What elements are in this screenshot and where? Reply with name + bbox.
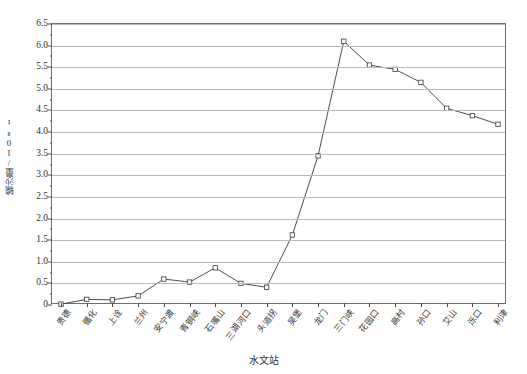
- x-tick-label: 艾山: [437, 306, 459, 329]
- y-tick-mark: [48, 218, 52, 219]
- x-tick-label-text: 高村: [386, 306, 408, 329]
- data-point-marker: [162, 277, 166, 281]
- x-tick-label: 花园口: [355, 306, 382, 336]
- y-tick-label: 4.5: [22, 104, 48, 114]
- plot-area: [51, 23, 506, 304]
- y-tick-mark: [48, 67, 52, 68]
- x-tick-label: 孙口: [412, 306, 434, 329]
- x-tick-label-text: 艾山: [437, 306, 459, 329]
- y-tick-mark: [48, 175, 52, 176]
- y-tick-mark: [48, 88, 52, 89]
- y-tick-label: 1.5: [22, 234, 48, 244]
- data-point-marker: [470, 113, 474, 117]
- y-tick-label: 0: [22, 299, 48, 309]
- x-tick-label: 吴堡: [283, 306, 305, 329]
- y-tick-label: 3.5: [22, 148, 48, 158]
- gridline: [52, 46, 505, 47]
- data-point-marker: [290, 233, 294, 237]
- x-axis-tick-labels: 贵德循化上诠兰州安宁渡青铜峡石嘴山三湖河口头道拐吴堡龙门三门峡花园口高村孙口艾山…: [51, 306, 506, 356]
- gridline: [52, 262, 505, 263]
- y-tick-label: 6.0: [22, 40, 48, 50]
- x-tick-label-text: 利津: [489, 306, 511, 329]
- y-tick-label: 3.0: [22, 169, 48, 179]
- x-tick-label-text: 循化: [77, 306, 99, 329]
- gridline: [52, 67, 505, 68]
- x-tick-label: 上诠: [103, 306, 125, 329]
- gridline: [52, 24, 505, 25]
- x-tick-label-text: 孙口: [412, 306, 434, 329]
- x-tick-label-text: 花园口: [355, 306, 382, 336]
- gridline: [52, 110, 505, 111]
- y-minor-tick-mark: [50, 121, 53, 122]
- x-tick-label-text: 青铜峡: [175, 306, 202, 336]
- x-tick-label: 龙门: [309, 306, 331, 329]
- y-tick-label: 1.0: [22, 256, 48, 266]
- y-tick-mark: [48, 132, 52, 133]
- x-tick-label-text: 三门峡: [329, 306, 356, 336]
- y-tick-label: 4.0: [22, 126, 48, 136]
- data-point-marker: [85, 297, 89, 301]
- x-tick-label: 高村: [386, 306, 408, 329]
- y-tick-label: 6.5: [22, 18, 48, 28]
- y-minor-tick-mark: [50, 207, 53, 208]
- data-point-marker: [136, 294, 140, 298]
- x-tick-label: 贵德: [52, 306, 74, 329]
- x-tick-label-text: 泺口: [463, 306, 485, 329]
- y-minor-tick-mark: [50, 272, 53, 273]
- y-tick-mark: [48, 45, 52, 46]
- data-line: [61, 41, 498, 304]
- x-tick-label-text: 贵德: [52, 306, 74, 329]
- y-minor-tick-mark: [50, 186, 53, 187]
- x-tick-label-text: 上诠: [103, 306, 125, 329]
- data-point-marker: [342, 39, 346, 43]
- x-tick-label: 青铜峡: [175, 306, 202, 336]
- x-tick-label-text: 安宁渡: [149, 306, 176, 336]
- data-point-marker: [110, 298, 114, 302]
- y-tick-label: 5.0: [22, 83, 48, 93]
- y-minor-tick-mark: [50, 294, 53, 295]
- y-tick-mark: [48, 110, 52, 111]
- x-tick-label-text: 兰州: [129, 306, 151, 329]
- y-tick-mark: [48, 196, 52, 197]
- gridline: [52, 197, 505, 198]
- y-minor-tick-mark: [50, 164, 53, 165]
- gridline: [52, 175, 505, 176]
- x-tick-label: 泺口: [463, 306, 485, 329]
- x-tick-label-text: 龙门: [309, 306, 331, 329]
- data-point-marker: [419, 80, 423, 84]
- gridline: [52, 132, 505, 133]
- data-point-marker: [496, 122, 500, 126]
- gridline: [52, 219, 505, 220]
- x-tick-label: 循化: [77, 306, 99, 329]
- y-minor-tick-mark: [50, 78, 53, 79]
- gridline: [52, 240, 505, 241]
- y-tick-label: 2.5: [22, 191, 48, 201]
- y-tick-label: 5.5: [22, 61, 48, 71]
- y-minor-tick-mark: [50, 142, 53, 143]
- x-tick-label: 三门峡: [329, 306, 356, 336]
- x-tick-label: 利津: [489, 306, 511, 329]
- series-line: [52, 24, 507, 305]
- x-tick-label: 头道拐: [252, 306, 279, 336]
- y-tick-mark: [48, 240, 52, 241]
- x-tick-label-text: 吴堡: [283, 306, 305, 329]
- x-tick-label: 兰州: [129, 306, 151, 329]
- y-tick-label: 0.5: [22, 277, 48, 287]
- y-tick-mark: [48, 24, 52, 25]
- gridline: [52, 89, 505, 90]
- y-axis-title: 输沙量/10⁸t: [4, 118, 20, 195]
- y-axis-title-text: 输沙量/10⁸t: [4, 118, 14, 195]
- y-minor-tick-mark: [50, 229, 53, 230]
- sediment-load-line-chart: 输沙量/10⁸t 00.51.01.52.02.53.03.54.04.55.0…: [0, 0, 527, 374]
- y-tick-label: 2.0: [22, 213, 48, 223]
- data-point-marker: [264, 285, 268, 289]
- x-axis-title: 水文站: [0, 352, 527, 367]
- y-tick-mark: [48, 283, 52, 284]
- y-minor-tick-mark: [50, 56, 53, 57]
- y-minor-tick-mark: [50, 250, 53, 251]
- gridline: [52, 283, 505, 284]
- data-point-marker: [213, 266, 217, 270]
- y-minor-tick-mark: [50, 99, 53, 100]
- x-tick-label: 安宁渡: [149, 306, 176, 336]
- y-minor-tick-mark: [50, 34, 53, 35]
